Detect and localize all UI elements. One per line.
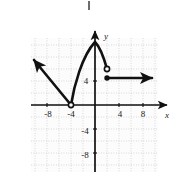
graph-figure: x y -8 -4 4 8 4 -4 -8 [0, 0, 181, 188]
y-tick-label-4: 4 [84, 76, 89, 86]
top-artifact-mark [88, 1, 90, 10]
x-tick-label-8: 8 [141, 109, 146, 119]
y-tick-label--8: -8 [81, 150, 89, 160]
x-axis-label: x [164, 110, 169, 120]
open-circle-marker-left [68, 102, 73, 107]
open-circle-marker-curve-end [104, 66, 109, 71]
x-tick-label-4: 4 [118, 109, 123, 119]
coordinate-plane-svg: x y -8 -4 4 8 4 -4 -8 [0, 0, 181, 188]
filled-circle-marker-ray-start [104, 75, 109, 80]
y-tick-label--4: -4 [81, 126, 89, 136]
y-axis-label: y [103, 31, 108, 41]
x-tick-label--8: -8 [44, 109, 52, 119]
x-tick-label--4: -4 [67, 109, 75, 119]
